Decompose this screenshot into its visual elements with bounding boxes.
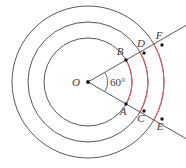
point-label-b: B bbox=[117, 45, 124, 57]
geometry-figure: O 60° A B C D E F bbox=[0, 0, 186, 168]
middle-sector-arc bbox=[140, 52, 148, 112]
point-label-a: A bbox=[119, 105, 127, 117]
angle-label: 60° bbox=[110, 76, 125, 88]
point-label-f: F bbox=[155, 29, 163, 41]
outer-sector-arc bbox=[154, 44, 164, 120]
lower-ray bbox=[88, 82, 186, 139]
geometry-canvas: O 60° A B C D E F bbox=[0, 0, 186, 168]
highlight-arcs-group bbox=[126, 44, 164, 120]
point-label-c: C bbox=[137, 112, 145, 124]
labels-group: O 60° A B C D E F bbox=[72, 29, 164, 132]
upper-ray bbox=[88, 25, 186, 82]
inner-sector-arc bbox=[126, 60, 132, 104]
point-marker-f bbox=[160, 43, 163, 46]
angle-indicator-arc bbox=[105, 73, 107, 91]
center-point-marker bbox=[86, 80, 90, 84]
center-label: O bbox=[72, 76, 80, 88]
point-label-d: D bbox=[136, 37, 145, 49]
point-label-e: E bbox=[156, 120, 164, 132]
point-marker-d bbox=[142, 51, 145, 54]
point-marker-b bbox=[124, 58, 127, 61]
intersection-markers-group bbox=[124, 43, 163, 120]
